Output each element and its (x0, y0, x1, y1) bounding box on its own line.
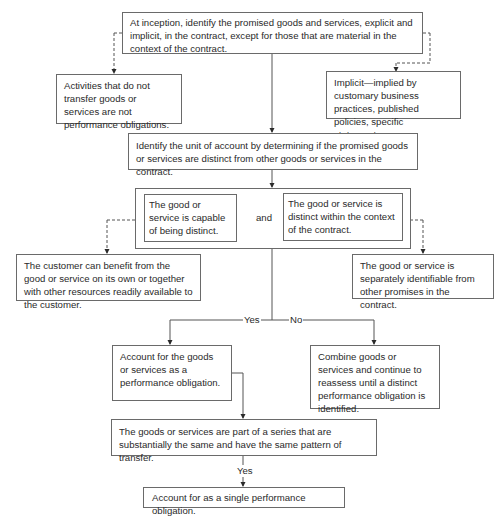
note-activities-not-transfer-text: Activities that do not transfer goods or… (64, 80, 169, 130)
outcome-account-as-performance-obligation-text: Account for the goods or services as a p… (120, 351, 220, 388)
step-identify-unit-of-account: Identify the unit of account by determin… (128, 133, 418, 170)
criterion-distinct-within-context: The good or service is distinct within t… (283, 193, 403, 241)
step-identify-unit-of-account-text: Identify the unit of account by determin… (136, 140, 408, 177)
step-series-check: The goods or services are part of a seri… (111, 419, 377, 456)
criterion-distinct-within-context-text: The good or service is distinct within t… (288, 198, 395, 235)
outcome-combine-goods-text: Combine goods or services and continue t… (318, 351, 425, 414)
final-single-performance-obligation-text: Account for as a single performance obli… (152, 492, 306, 516)
branch-no-label: No (289, 314, 303, 326)
step-series-check-text: The goods or services are part of a seri… (119, 426, 341, 463)
criterion-capable-of-being-distinct-text: The good or service is capable of being … (149, 199, 225, 236)
step-identify-promised-goods: At inception, identify the promised good… (122, 12, 423, 54)
note-activities-not-transfer: Activities that do not transfer goods or… (56, 74, 182, 124)
note-implicit-promises-text: Implicit—implied by customary business p… (334, 77, 419, 140)
outcome-combine-goods: Combine goods or services and continue t… (310, 345, 440, 409)
series-yes-label: Yes (236, 465, 254, 477)
note-implicit-promises: Implicit—implied by customary business p… (326, 71, 461, 119)
note-separately-identifiable: The good or service is separately identi… (352, 254, 494, 299)
note-customer-can-benefit-text: The customer can benefit from the good o… (24, 260, 193, 310)
note-customer-can-benefit: The customer can benefit from the good o… (16, 254, 201, 301)
note-separately-identifiable-text: The good or service is separately identi… (360, 260, 475, 310)
criterion-capable-of-being-distinct: The good or service is capable of being … (144, 194, 237, 242)
outcome-account-as-performance-obligation: Account for the goods or services as a p… (112, 345, 232, 401)
branch-yes-label: Yes (243, 314, 261, 326)
final-single-performance-obligation: Account for as a single performance obli… (143, 487, 345, 508)
step-identify-promised-goods-text: At inception, identify the promised good… (130, 17, 413, 54)
criteria-and-label: and (255, 212, 273, 224)
